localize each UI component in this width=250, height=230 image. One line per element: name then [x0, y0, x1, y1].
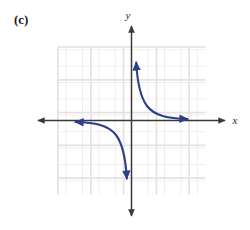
- y-axis-label: y: [125, 9, 131, 21]
- x-axis-label: x: [232, 114, 238, 126]
- graph-canvas: y x: [0, 0, 250, 230]
- figure-container: (c): [0, 0, 250, 230]
